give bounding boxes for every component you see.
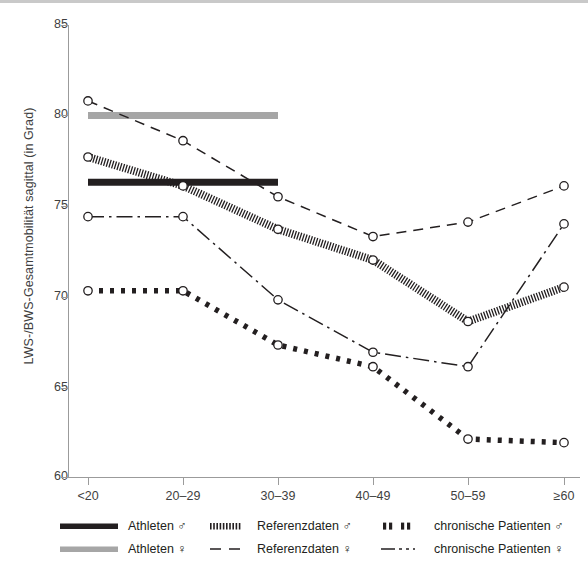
legend-label-referenzdaten-female: Referenzdaten ♀ [257,542,352,556]
legend-item-referenzdaten-female: Referenzdaten ♀ [208,537,352,560]
legend-item-chronische-patienten-male: chronische Patienten ♂ [379,514,564,537]
data-point-5-3 [369,348,377,356]
data-point-2-5 [560,283,568,291]
data-point-3-3 [369,232,377,240]
legend-label-athleten-male: Athleten ♂ [128,519,187,533]
data-point-2-3 [369,256,377,264]
legend-label-chronische-patienten-male: chronische Patienten ♂ [434,519,564,533]
data-point-3-4 [464,218,472,226]
legend-item-referenzdaten-male: Referenzdaten ♂ [208,514,352,537]
data-point-4-5 [560,438,568,446]
legend-swatch-dash-dot-icon [379,542,427,556]
data-point-2-4 [464,317,472,325]
data-point-3-0 [84,97,92,105]
data-point-3-2 [274,193,282,201]
data-point-5-2 [274,296,282,304]
data-point-4-0 [84,287,92,295]
legend-row-female: Athleten ♀ Referenzdaten ♀ chronische Pa… [0,537,588,560]
data-point-2-0 [84,153,92,161]
series-5 [88,217,564,367]
data-point-5-5 [560,220,568,228]
legend-swatch-thick-dotted-icon [379,519,427,533]
legend-row-male: Athleten ♂ Referenzdaten ♂ [0,514,588,537]
plot-area [0,0,588,575]
data-point-4-3 [369,363,377,371]
data-point-5-1 [179,212,187,220]
legend-label-referenzdaten-male: Referenzdaten ♂ [257,519,352,533]
legend-item-chronische-patienten-female: chronische Patienten ♀ [379,537,564,560]
legend-swatch-dashed-icon [208,542,250,556]
chart-legend: Athleten ♂ Referenzdaten ♂ [0,514,588,560]
data-point-5-0 [84,212,92,220]
data-point-2-2 [274,225,282,233]
data-point-3-1 [179,137,187,145]
legend-item-athleten-female: Athleten ♀ [58,537,187,560]
data-point-4-1 [179,287,187,295]
data-point-4-2 [274,341,282,349]
legend-label-chronische-patienten-female: chronische Patienten ♀ [434,542,564,556]
legend-swatch-thick-solid-gray-bar-icon [58,542,121,556]
data-point-2-1 [179,182,187,190]
data-point-3-5 [560,182,568,190]
data-point-5-4 [464,363,472,371]
legend-swatch-dense-hatched-band-icon [208,519,250,533]
legend-item-athleten-male: Athleten ♂ [58,514,187,537]
chart-figure: LWS-/BWS-Gesamtmobilität sagittal (in Gr… [0,0,588,575]
legend-swatch-thick-solid-black-bar-icon [58,519,121,533]
data-point-4-4 [464,435,472,443]
legend-label-athleten-female: Athleten ♀ [128,542,187,556]
